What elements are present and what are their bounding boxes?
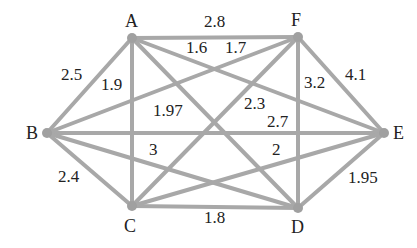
edge-weight-label: 2.3	[244, 95, 265, 112]
edge-weight-label: 1.97	[153, 102, 183, 119]
node-a	[127, 33, 137, 43]
node-label: E	[393, 124, 404, 142]
edge-weight-label: 2.7	[267, 113, 288, 130]
edge-weight-label: 2.8	[204, 13, 225, 30]
node-f	[293, 32, 303, 42]
edge-weight-label: 1.7	[225, 39, 246, 56]
node-label: F	[291, 11, 301, 29]
edge-a-f	[132, 37, 298, 38]
node-d	[293, 203, 303, 213]
node-e	[379, 128, 389, 138]
edge-weight-label: 4.1	[345, 66, 366, 83]
edge-weight-label: 2.5	[61, 66, 82, 83]
node-c	[127, 201, 137, 211]
node-b	[42, 128, 52, 138]
edge-weight-label: 3.2	[304, 74, 325, 91]
weighted-graph-diagram: 2.82.51.91.971.61.72.33.24.12.7322.41.81…	[0, 0, 417, 248]
edge-weight-label: 2.4	[58, 168, 79, 185]
edge-weight-label: 1.8	[204, 209, 225, 226]
edge-weight-label: 1.95	[348, 169, 378, 186]
edge-weight-label: 1.6	[186, 39, 207, 56]
edge-weight-label: 1.9	[101, 76, 122, 93]
node-label: B	[26, 124, 38, 142]
edge-weight-label: 3	[149, 141, 158, 158]
node-label: A	[125, 12, 138, 30]
node-label: D	[291, 218, 304, 236]
edge-weight-label: 2	[272, 141, 281, 158]
node-label: C	[124, 217, 136, 235]
